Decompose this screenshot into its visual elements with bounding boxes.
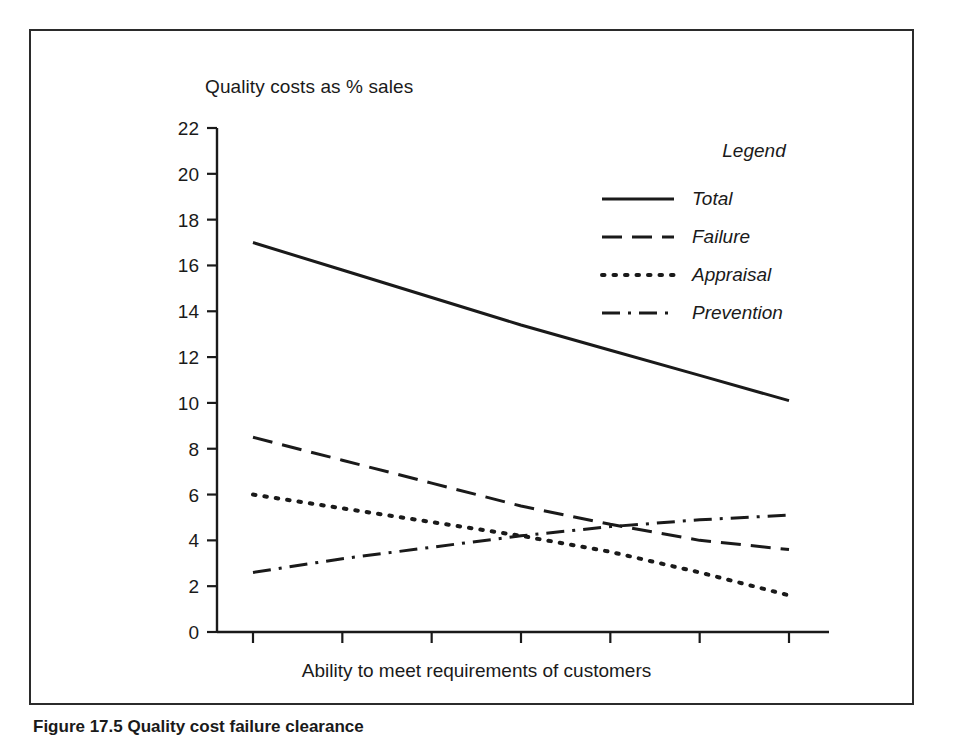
- legend-entry-total: Total: [600, 180, 890, 218]
- y-axis-tick-label: 14: [178, 301, 200, 322]
- series-line-appraisal: [253, 495, 789, 596]
- line-chart-plot: 0246810121416182022: [29, 29, 914, 705]
- legend-entry-failure: Failure: [600, 218, 890, 256]
- x-axis-label: Ability to meet requirements of customer…: [0, 660, 953, 682]
- x-axis-ticks: [253, 632, 789, 643]
- y-axis-tick-label: 16: [178, 255, 199, 276]
- figure-caption: Figure 17.5 Quality cost failure clearan…: [33, 717, 364, 735]
- y-axis-ticks: [207, 128, 217, 632]
- chart-legend: Legend TotalFailureAppraisalPrevention: [600, 140, 890, 332]
- y-axis-tick-label: 0: [188, 622, 199, 643]
- legend-label: Total: [692, 188, 733, 210]
- legend-title: Legend: [618, 140, 890, 162]
- legend-label: Appraisal: [692, 264, 771, 286]
- legend-entry-appraisal: Appraisal: [600, 256, 890, 294]
- y-axis-tick-label: 2: [188, 576, 199, 597]
- legend-swatch-dotted-icon: [600, 268, 676, 282]
- y-axis-tick-label: 20: [178, 164, 199, 185]
- legend-entries: TotalFailureAppraisalPrevention: [600, 180, 890, 332]
- y-axis-tick-label: 8: [188, 439, 199, 460]
- y-axis-tick-label: 22: [178, 118, 199, 139]
- legend-swatch-dash-dot-icon: [600, 306, 676, 320]
- legend-entry-prevention: Prevention: [600, 294, 890, 332]
- legend-swatch-dashed-icon: [600, 230, 676, 244]
- y-axis-tick-label: 6: [188, 485, 199, 506]
- y-axis-tick-label: 4: [188, 530, 199, 551]
- y-axis-tick-label: 18: [178, 210, 199, 231]
- series-line-prevention: [253, 515, 789, 572]
- y-axis-tick-label: 10: [178, 393, 199, 414]
- series-line-failure: [253, 437, 789, 549]
- legend-swatch-solid-icon: [600, 192, 676, 206]
- y-axis-tick-labels: 0246810121416182022: [178, 118, 200, 643]
- y-axis-tick-label: 12: [178, 347, 199, 368]
- legend-label: Prevention: [692, 302, 783, 324]
- legend-label: Failure: [692, 226, 750, 248]
